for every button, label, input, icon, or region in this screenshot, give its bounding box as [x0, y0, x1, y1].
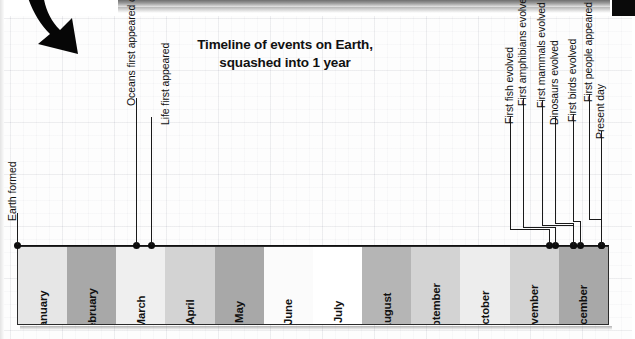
leader-line-stem	[555, 117, 556, 223]
month-band-january: January	[18, 247, 67, 324]
month-label: May	[233, 301, 245, 323]
event-label: Earth formed	[6, 162, 18, 222]
leader-line-stem	[151, 117, 152, 245]
page-corner-dark	[612, 0, 635, 16]
event-label: First mammals evolved	[535, 2, 547, 108]
leader-line-horizontal	[573, 221, 580, 222]
month-label: February	[86, 288, 98, 325]
month-label: April	[184, 299, 196, 324]
months-bar: JanuaryFebruaryMarchAprilMayJuneJulyAugu…	[17, 246, 609, 325]
month-label: December	[577, 285, 589, 325]
month-label: November	[528, 285, 540, 325]
leader-line-horizontal	[542, 225, 573, 226]
leader-line-stem	[573, 114, 574, 221]
leader-line-stem	[523, 98, 524, 227]
month-band-march: March	[116, 247, 165, 324]
page-title: Timeline of events on Earth, squashed in…	[150, 36, 420, 72]
month-band-december: December	[559, 247, 608, 324]
month-band-may: May	[215, 247, 264, 324]
month-band-july: July	[313, 247, 362, 324]
leader-line-horizontal	[589, 219, 601, 220]
leader-line-vertical	[549, 229, 550, 245]
title-line-2: squashed into 1 year	[219, 55, 350, 70]
leader-line-stem	[542, 100, 543, 225]
event-label: Dinosaurs evolved	[548, 40, 560, 125]
month-band-february: February	[67, 247, 116, 324]
leader-line-stem	[601, 131, 602, 245]
curved-down-arrow-icon	[16, 0, 116, 58]
month-band-september: September	[411, 247, 460, 324]
leader-line-vertical	[580, 221, 581, 245]
timeline-infographic: Timeline of events on Earth, squashed in…	[0, 0, 635, 339]
month-label: October	[479, 291, 491, 325]
leader-line-stem	[510, 116, 511, 229]
event-label: First people appeared on Earth	[582, 0, 594, 102]
month-band-november: November	[510, 247, 559, 324]
event-label: Life first appeared	[159, 43, 171, 125]
month-band-june: June	[264, 247, 313, 324]
month-band-october: October	[460, 247, 509, 324]
leader-line-vertical	[555, 227, 556, 245]
leader-line-stem	[136, 98, 137, 245]
leader-line-stem	[589, 94, 590, 219]
leader-line-horizontal	[523, 227, 555, 228]
event-label: Oceans first appeared on Earth	[125, 0, 137, 106]
event-label: Present day	[594, 84, 606, 139]
month-label: August	[381, 293, 393, 325]
months-bar-shadow	[20, 326, 612, 330]
leader-line-vertical	[573, 223, 574, 245]
leader-line-horizontal	[510, 229, 549, 230]
month-band-april: April	[165, 247, 214, 324]
event-label: First fish evolved	[503, 47, 515, 124]
month-label: July	[332, 301, 344, 323]
month-label: March	[135, 296, 147, 325]
month-label: September	[430, 283, 442, 325]
event-label: First amphibians evolved	[516, 0, 528, 106]
event-label: First birds evolved	[566, 39, 578, 122]
month-label: June	[282, 299, 294, 325]
page-left-edge	[0, 0, 4, 339]
month-band-august: August	[362, 247, 411, 324]
month-label: January	[37, 291, 49, 325]
leader-line-horizontal	[555, 223, 573, 224]
title-line-1: Timeline of events on Earth,	[197, 37, 373, 52]
